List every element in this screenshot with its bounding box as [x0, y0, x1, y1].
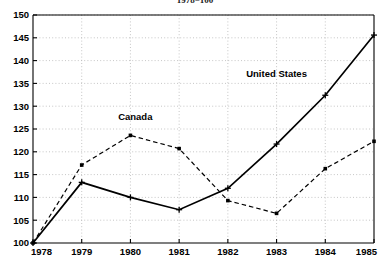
- line-chart: 1978=100 1001051101151201251301351401451…: [0, 0, 390, 261]
- series-annotations: United StatesCanada: [118, 68, 307, 123]
- x-axis-ticks: [33, 239, 374, 243]
- x-tick-label: 1982: [217, 246, 238, 257]
- horizontal-gridlines: [33, 15, 374, 220]
- y-axis-ticks: [33, 15, 37, 243]
- y-tick-label: 105: [13, 215, 30, 226]
- x-tick-label: 1981: [169, 246, 191, 257]
- data-point-marker: [80, 163, 84, 167]
- data-point-marker: [31, 241, 35, 245]
- series-label-canada: Canada: [118, 111, 153, 122]
- y-tick-label: 145: [13, 32, 30, 43]
- data-point-marker: [275, 212, 279, 216]
- data-point-marker: [127, 194, 133, 200]
- y-tick-label: 125: [13, 123, 30, 134]
- x-tick-label: 1984: [315, 246, 337, 257]
- x-axis-tick-labels: 19781979198019811982198319841985: [31, 246, 378, 257]
- data-point-marker: [323, 167, 327, 171]
- x-tick-label: 1979: [71, 246, 92, 257]
- x-tick-label: 1983: [266, 246, 287, 257]
- x-tick-label: 1985: [356, 246, 378, 257]
- y-tick-label: 135: [13, 78, 30, 89]
- series-label-united-states: United States: [246, 68, 307, 79]
- y-tick-label: 100: [13, 237, 29, 248]
- y-tick-label: 115: [14, 169, 30, 180]
- y-tick-label: 130: [13, 101, 29, 112]
- y-tick-label: 120: [13, 146, 29, 157]
- x-tick-label: 1980: [120, 246, 141, 257]
- data-point-marker: [372, 140, 376, 144]
- y-axis-tick-labels: 100105110115120125130135140145150: [13, 9, 30, 248]
- y-tick-label: 150: [13, 9, 29, 20]
- data-point-marker: [129, 134, 133, 138]
- y-tick-label: 140: [13, 55, 29, 66]
- data-point-marker: [226, 199, 230, 203]
- series-line-united-states: [33, 35, 374, 243]
- x-tick-label: 1978: [31, 246, 52, 257]
- plot-area: 100105110115120125130135140145150 197819…: [0, 0, 390, 261]
- data-point-marker: [176, 207, 182, 213]
- y-tick-label: 110: [14, 192, 29, 203]
- data-point-marker: [177, 147, 181, 151]
